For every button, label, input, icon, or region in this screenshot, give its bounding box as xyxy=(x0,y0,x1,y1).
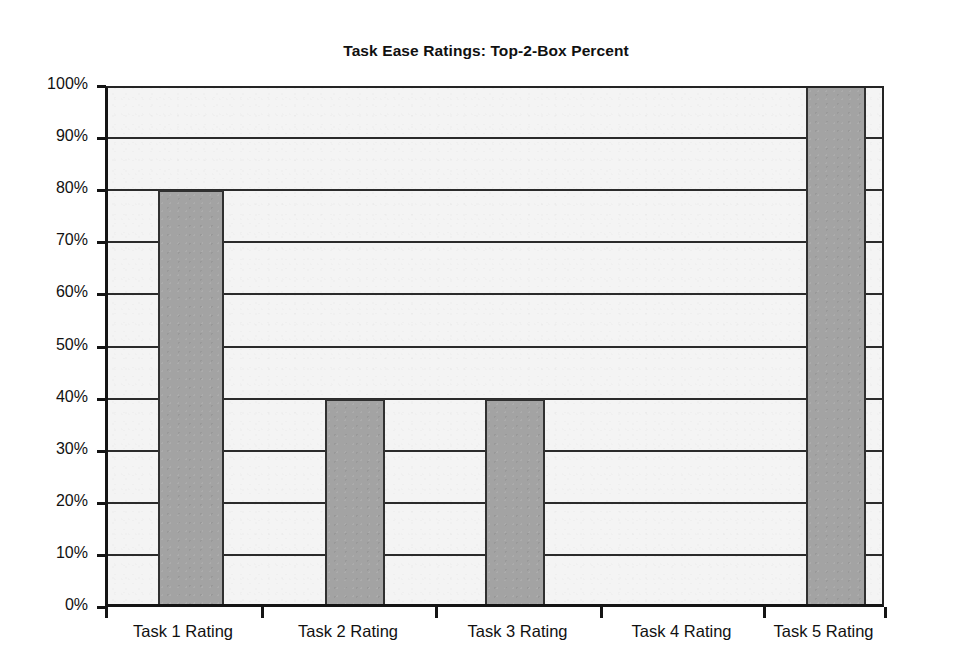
y-axis-tick-label: 20% xyxy=(10,492,88,510)
y-axis-tick-label: 60% xyxy=(10,283,88,301)
x-axis-tick xyxy=(435,607,438,618)
x-axis-tick xyxy=(261,607,264,618)
y-axis-tick xyxy=(97,606,106,609)
bar-5 xyxy=(806,86,866,607)
chart-container: Task Ease Ratings: Top-2-Box Percent 100… xyxy=(0,0,972,670)
y-axis-tick xyxy=(97,398,106,401)
y-axis-tick xyxy=(97,293,106,296)
plot-area xyxy=(105,86,884,607)
y-axis-tick-label: 100% xyxy=(10,75,88,93)
y-axis-tick-label: 80% xyxy=(10,179,88,197)
gridline xyxy=(105,137,884,139)
x-axis-category-label-5: Task 5 Rating xyxy=(763,622,884,641)
y-axis-tick xyxy=(97,346,106,349)
y-axis-tick-label: 90% xyxy=(10,127,88,145)
x-axis-category-label-2: Task 2 Rating xyxy=(261,622,435,641)
x-axis-category-label-1: Task 1 Rating xyxy=(105,622,261,641)
y-axis-tick xyxy=(97,502,106,505)
y-axis-tick-label: 0% xyxy=(10,596,88,614)
x-axis-tick xyxy=(600,607,603,618)
y-axis-label-group: 100%90%80%70%60%50%40%30%20%10%0% xyxy=(8,0,88,670)
y-axis-tick-label: 40% xyxy=(10,388,88,406)
bar-2 xyxy=(325,399,385,607)
bar-3 xyxy=(485,399,545,607)
y-axis-tick xyxy=(97,189,106,192)
y-axis-tick xyxy=(97,554,106,557)
y-axis-tick-label: 30% xyxy=(10,440,88,458)
bar-1 xyxy=(158,190,224,607)
y-axis-tick xyxy=(97,137,106,140)
x-axis-category-label-3: Task 3 Rating xyxy=(435,622,600,641)
y-axis-tick-label: 50% xyxy=(10,336,88,354)
x-axis-category-label-4: Task 4 Rating xyxy=(600,622,763,641)
x-axis-tick xyxy=(763,607,766,618)
y-axis-tick xyxy=(97,241,106,244)
y-axis-tick-label: 10% xyxy=(10,544,88,562)
y-axis-tick xyxy=(97,450,106,453)
x-axis-tick xyxy=(884,607,887,618)
y-axis-tick-label: 70% xyxy=(10,231,88,249)
chart-title: Task Ease Ratings: Top-2-Box Percent xyxy=(0,42,972,60)
y-axis-tick xyxy=(97,85,106,88)
